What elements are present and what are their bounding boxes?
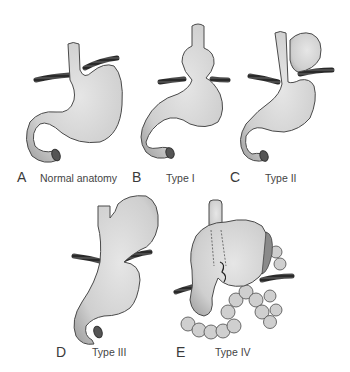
panel-caption-d: Type III — [92, 346, 126, 358]
panel-c-type-ii — [240, 32, 332, 163]
panel-letter-a: A — [17, 169, 26, 185]
panel-e-type-iv — [176, 200, 292, 339]
panel-letter-c: C — [230, 169, 240, 185]
panel-d-type-iii — [74, 196, 158, 345]
panel-b-type-i — [141, 24, 228, 160]
panel-a-normal-anatomy — [26, 43, 122, 163]
panel-letter-e: E — [176, 344, 185, 360]
diaphragm-left — [74, 256, 104, 262]
panel-caption-c: Type II — [265, 172, 297, 184]
diaphragm-right — [212, 79, 228, 80]
diaphragm-right — [262, 276, 292, 280]
panel-caption-e: Type IV — [215, 346, 251, 358]
stomach — [74, 196, 158, 345]
panel-caption-b: Type I — [166, 172, 195, 184]
pylorus-opening — [92, 325, 104, 339]
paraesophageal-hernia — [290, 33, 321, 72]
panel-caption-a: Normal anatomy — [40, 172, 117, 184]
panel-letter-b: B — [132, 169, 141, 185]
diaphragm-left — [250, 76, 278, 82]
panel-letter-d: D — [56, 344, 66, 360]
diaphragm-left — [36, 75, 70, 80]
diaphragm-left — [160, 79, 184, 82]
hiatal-hernia-diagram — [0, 0, 350, 372]
stomach — [141, 24, 223, 158]
